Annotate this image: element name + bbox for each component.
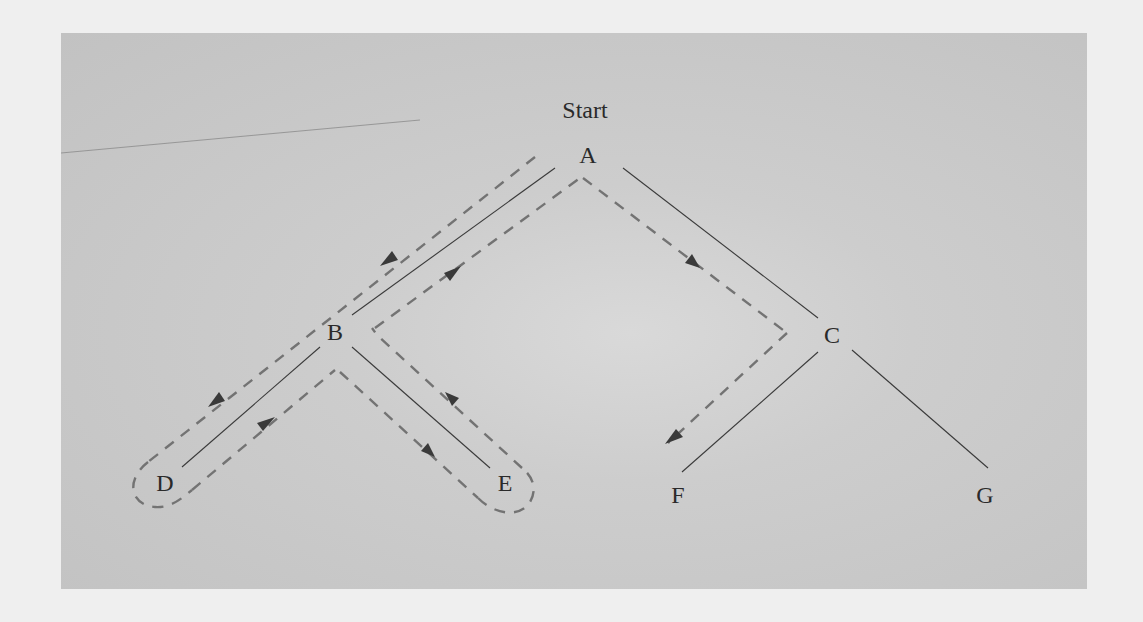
edge-b-e bbox=[352, 347, 490, 468]
node-b: B bbox=[327, 319, 343, 345]
direction-arrows bbox=[208, 251, 700, 457]
node-a: A bbox=[579, 142, 597, 168]
arrow-icon-b-to-a bbox=[444, 266, 461, 281]
path-b-to-e bbox=[340, 372, 478, 498]
node-g: G bbox=[976, 482, 993, 508]
node-e: E bbox=[498, 470, 513, 496]
traversal-path bbox=[133, 157, 787, 513]
edge-a-c bbox=[623, 168, 818, 318]
path-a-to-d bbox=[148, 157, 535, 462]
tree-edges bbox=[182, 168, 988, 472]
edge-a-b bbox=[352, 168, 555, 315]
path-e-to-b bbox=[372, 328, 522, 468]
node-d: D bbox=[156, 470, 173, 496]
path-b-to-a bbox=[375, 178, 580, 328]
path-a-to-c bbox=[583, 178, 787, 333]
arrow-icon-b-to-d bbox=[208, 392, 225, 407]
path-c-to-f bbox=[668, 333, 787, 443]
edge-b-d bbox=[182, 347, 320, 467]
arrow-icon-b-to-e bbox=[421, 443, 435, 457]
arrow-icon-a-to-b bbox=[380, 251, 398, 266]
start-label: Start bbox=[562, 97, 608, 123]
tree-traversal-diagram: Start A B C D E F G bbox=[0, 0, 1143, 622]
edge-c-g bbox=[852, 350, 988, 468]
node-f: F bbox=[671, 482, 684, 508]
node-c: C bbox=[824, 322, 840, 348]
edge-c-f bbox=[682, 352, 818, 472]
scan-scratch-mark bbox=[61, 120, 420, 153]
